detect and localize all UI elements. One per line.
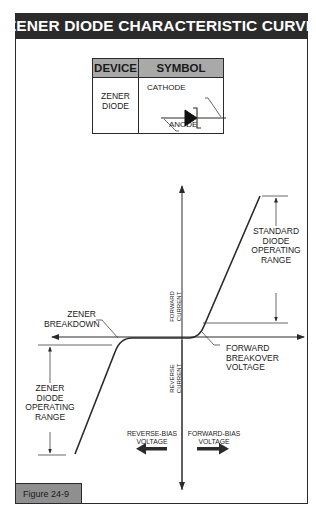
forward-breakover-label: FORWARD BREAKOVER VOLTAGE: [226, 344, 279, 373]
label-line: RANGE: [249, 256, 303, 266]
label-line: RANGE: [24, 413, 76, 423]
label-line: FORWARD: [169, 287, 176, 327]
forward-bias-voltage-label: FORWARD-BIAS VOLTAGE: [186, 430, 242, 445]
label-line: VOLTAGE: [186, 438, 242, 446]
reverse-bias-voltage-label: REVERSE-BIAS VOLTAGE: [124, 430, 180, 445]
zener-breakdown-label: ZENER BREAKDOWN: [44, 310, 96, 329]
label-line: VOLTAGE: [226, 363, 279, 373]
label-line: BREAKDOWN: [44, 320, 96, 330]
label-line: REVERSE: [169, 359, 176, 399]
zener-operating-range-label: ZENER DIODE OPERATING RANGE: [24, 384, 76, 422]
reverse-current-label: REVERSE CURRENT: [169, 359, 182, 399]
label-line: FORWARD-BIAS: [186, 430, 242, 438]
zener-diode-symbol-icon: [161, 98, 226, 131]
characteristic-curve: [75, 196, 260, 454]
label-line: VOLTAGE: [124, 438, 180, 446]
standard-operating-range-label: STANDARD DIODE OPERATING RANGE: [249, 227, 303, 265]
label-line: REVERSE-BIAS: [124, 430, 180, 438]
label-line: CURRENT: [175, 287, 182, 327]
label-line: CURRENT: [175, 359, 182, 399]
figure-label: Figure 24-9: [16, 483, 82, 503]
forward-current-label: FORWARD CURRENT: [169, 287, 182, 327]
forward-breakover-leader: [202, 332, 220, 345]
